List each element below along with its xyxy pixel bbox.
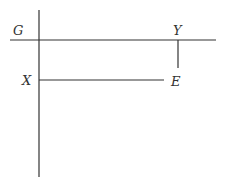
diagram-svg: G Y X E (0, 0, 226, 187)
label-Y: Y (173, 23, 183, 38)
label-X: X (21, 73, 32, 88)
label-G: G (13, 23, 23, 38)
diagram-canvas: G Y X E (0, 0, 226, 187)
label-E: E (170, 74, 181, 89)
